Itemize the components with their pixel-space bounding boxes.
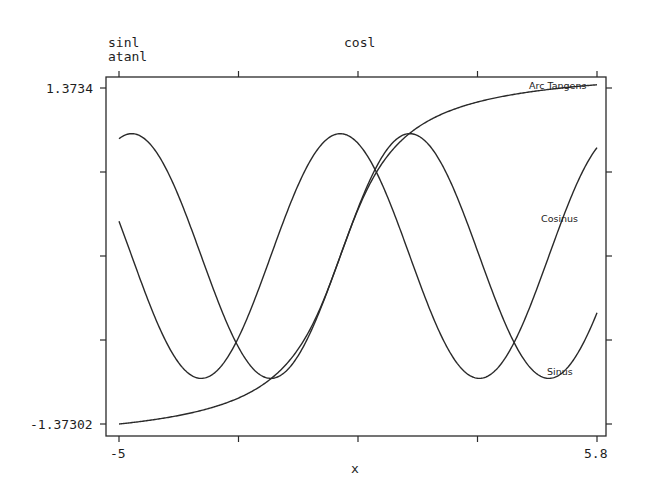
y-axis-max-label: 1.3734	[46, 82, 93, 96]
curve-arc-tangens	[119, 85, 597, 424]
top-axis-label-atanl: atanl	[108, 50, 147, 64]
top-axis-label-sinl: sinl	[108, 36, 139, 50]
x-axis-min-label: -5	[110, 447, 126, 461]
curve-sinus	[119, 134, 597, 379]
top-axis-label-cosl: cosl	[344, 36, 375, 50]
y-axis-min-label: -1.37302	[30, 418, 93, 432]
curves	[119, 85, 597, 424]
curve-cosinus	[119, 134, 597, 379]
axis-ticks	[100, 71, 612, 442]
curve-label-arc-tangens: Arc Tangens	[529, 80, 586, 91]
curve-label-sinus: Sinus	[547, 366, 573, 377]
x-axis-title: x	[351, 462, 359, 476]
curve-label-cosinus: Cosinus	[541, 213, 578, 224]
chart-plot-area	[0, 0, 646, 492]
x-axis-max-label: 5.8	[584, 447, 607, 461]
plot-frame	[106, 77, 606, 436]
